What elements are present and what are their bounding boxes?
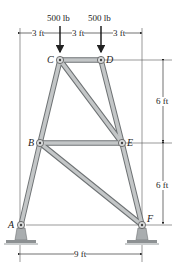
load-label-D: 500 lb: [88, 14, 111, 23]
dim-top-1: 3 ft: [32, 29, 44, 38]
dim-right-2: 6 ft: [156, 181, 168, 190]
node-label-A: A: [8, 220, 14, 230]
node-label-D: D: [106, 55, 113, 65]
node-label-E: E: [127, 138, 133, 148]
node-label-B: B: [28, 138, 34, 148]
dim-bottom: 9 ft: [74, 250, 86, 259]
dim-top-2: 3 ft: [72, 29, 84, 38]
truss-diagram: [0, 0, 187, 271]
dim-top-3: 3 ft: [113, 29, 125, 38]
node-label-F: F: [147, 214, 153, 224]
support-F: [125, 228, 159, 245]
support-A: [4, 228, 38, 245]
load-label-C: 500 lb: [47, 14, 70, 23]
node-label-C: C: [47, 55, 54, 65]
dim-right-1: 6 ft: [156, 97, 168, 106]
